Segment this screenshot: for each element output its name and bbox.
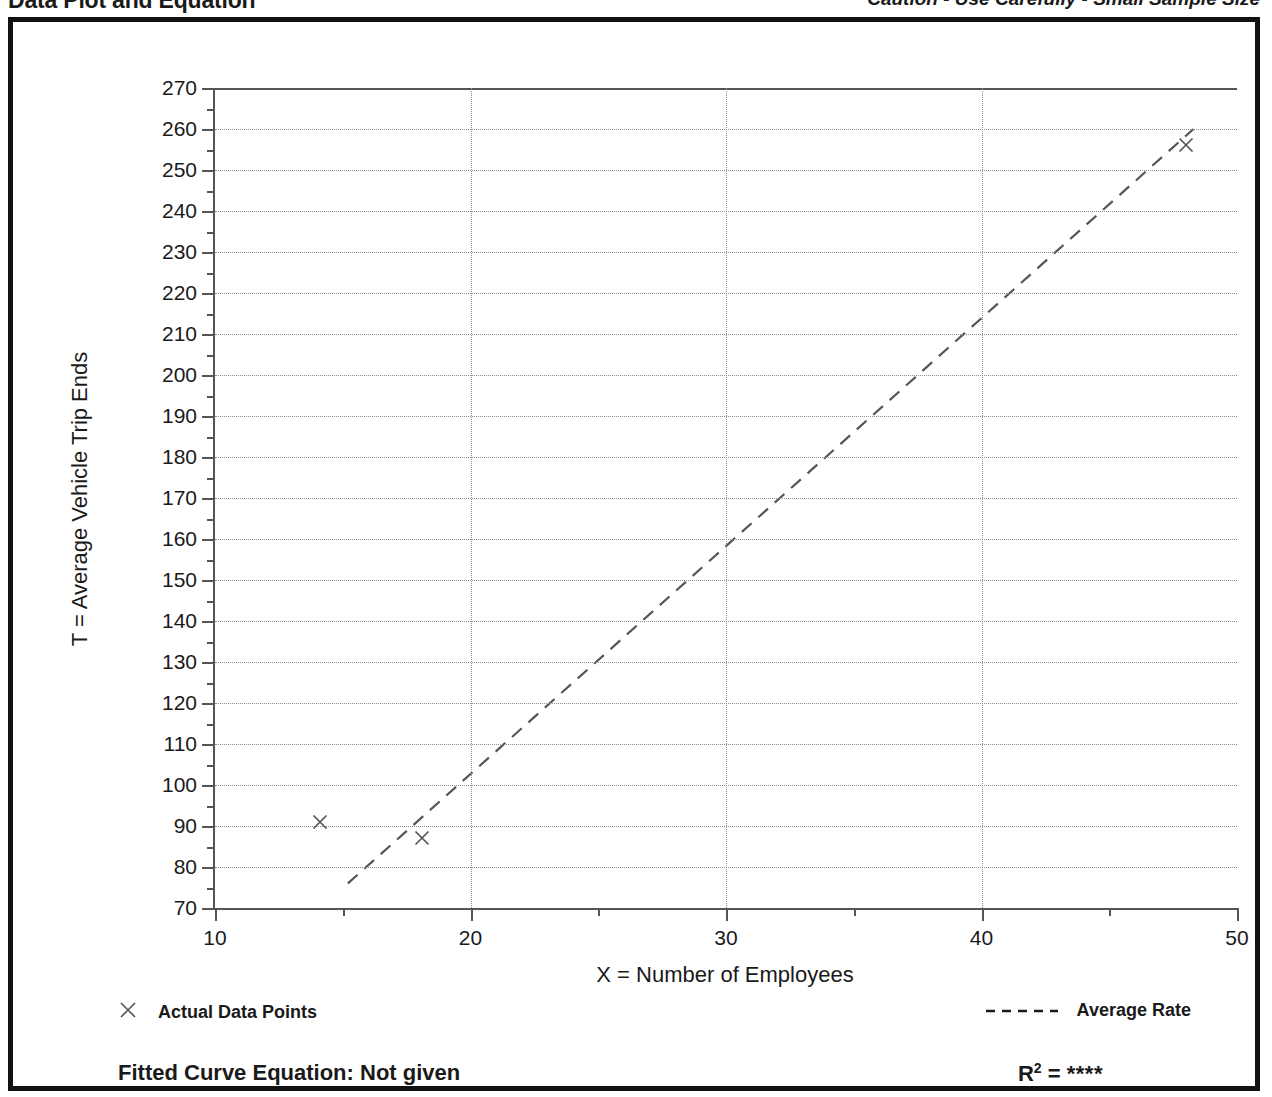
y-axis-minor-tick (207, 683, 215, 685)
y-gridline (215, 293, 1237, 294)
x-gridline (471, 88, 472, 908)
y-axis-minor-tick (207, 724, 215, 726)
x-axis-tick-label: 20 (459, 926, 482, 950)
x-axis-minor-tick (854, 908, 856, 916)
x-axis-tick-label: 50 (1225, 926, 1248, 950)
x-axis-minor-tick (598, 908, 600, 916)
y-gridline (215, 498, 1237, 499)
y-axis-tick-label: 90 (174, 814, 197, 838)
chart-legend: Actual Data Points Average Rate (21, 1000, 1265, 1040)
y-axis-tick (202, 293, 215, 295)
y-axis-tick (202, 334, 215, 336)
data-point-marker (412, 828, 432, 848)
y-axis-minor-tick (207, 560, 215, 562)
y-gridline (215, 785, 1237, 786)
y-axis-tick (202, 457, 215, 459)
y-gridline (215, 416, 1237, 417)
r2-equals: = (1042, 1061, 1067, 1086)
dashed-line-icon (985, 1002, 1059, 1020)
x-axis-title: X = Number of Employees (213, 962, 1237, 988)
y-axis-minor-tick (207, 150, 215, 152)
y-axis-minor-tick (207, 232, 215, 234)
chart-footer: Fitted Curve Equation: Not given R2 = **… (21, 1060, 1265, 1097)
y-gridline (215, 539, 1237, 540)
average-rate-trendline (215, 88, 1237, 908)
y-axis-minor-tick (207, 396, 215, 398)
y-axis-tick-label: 220 (162, 281, 197, 305)
x-axis-tick (1237, 908, 1239, 921)
y-axis-tick-label: 180 (162, 445, 197, 469)
y-axis-minor-tick (207, 642, 215, 644)
y-axis-tick (202, 539, 215, 541)
x-axis-tick (471, 908, 473, 921)
y-axis-tick (202, 621, 215, 623)
plot-inner: 7080901001101201301401501601701801902002… (215, 88, 1237, 908)
y-axis-tick (202, 88, 215, 90)
y-axis-tick-label: 240 (162, 199, 197, 223)
y-axis-tick-label: 200 (162, 363, 197, 387)
y-gridline (215, 826, 1237, 827)
r2-prefix: R (1018, 1061, 1034, 1086)
y-axis-tick-label: 270 (162, 76, 197, 100)
x-gridline (726, 88, 727, 908)
plot-area: 7080901001101201301401501601701801902002… (213, 88, 1237, 910)
y-axis-tick (202, 211, 215, 213)
y-axis-tick (202, 867, 215, 869)
y-gridline (215, 170, 1237, 171)
y-axis-minor-tick (207, 478, 215, 480)
y-axis-tick (202, 252, 215, 254)
y-axis-minor-tick (207, 314, 215, 316)
y-gridline (215, 703, 1237, 704)
y-axis-tick-label: 190 (162, 404, 197, 428)
y-axis-tick (202, 662, 215, 664)
y-axis-tick-label: 150 (162, 568, 197, 592)
y-gridline (215, 621, 1237, 622)
y-gridline (215, 88, 1237, 90)
y-gridline (215, 129, 1237, 130)
y-gridline (215, 867, 1237, 868)
y-gridline (215, 211, 1237, 212)
y-gridline (215, 457, 1237, 458)
y-axis-minor-tick (207, 765, 215, 767)
y-axis-tick-label: 140 (162, 609, 197, 633)
x-axis-minor-tick (343, 908, 345, 916)
y-axis-minor-tick (207, 888, 215, 890)
x-axis-tick (726, 908, 728, 921)
y-axis-tick-label: 130 (162, 650, 197, 674)
x-marker-icon (118, 1000, 138, 1024)
y-axis-tick (202, 375, 215, 377)
y-gridline (215, 744, 1237, 745)
r2-stars: **** (1067, 1061, 1103, 1086)
y-axis-tick-label: 120 (162, 691, 197, 715)
y-axis-tick (202, 129, 215, 131)
data-point-marker (310, 812, 330, 832)
legend-label-actual-data-points: Actual Data Points (158, 1002, 317, 1023)
data-point-marker (1176, 135, 1196, 155)
y-gridline (215, 662, 1237, 663)
y-gridline (215, 252, 1237, 253)
legend-label-average-rate: Average Rate (1077, 1000, 1191, 1021)
y-axis-tick-label: 160 (162, 527, 197, 551)
legend-item-actual-data-points: Actual Data Points (118, 1000, 317, 1024)
y-axis-minor-tick (207, 191, 215, 193)
y-axis-title: T = Average Vehicle Trip Ends (65, 88, 95, 910)
y-axis-tick (202, 580, 215, 582)
y-axis-tick (202, 703, 215, 705)
y-gridline (215, 334, 1237, 335)
y-axis-tick-label: 80 (174, 855, 197, 879)
y-axis-minor-tick (207, 847, 215, 849)
y-axis-tick (202, 498, 215, 500)
y-axis-tick (202, 416, 215, 418)
y-axis-tick-label: 100 (162, 773, 197, 797)
legend-item-average-rate: Average Rate (985, 1000, 1191, 1021)
y-axis-tick (202, 826, 215, 828)
y-axis-tick (202, 744, 215, 746)
y-axis-tick-label: 230 (162, 240, 197, 264)
y-axis-minor-tick (207, 806, 215, 808)
y-axis-tick-label: 250 (162, 158, 197, 182)
y-axis-minor-tick (207, 437, 215, 439)
y-axis-minor-tick (207, 519, 215, 521)
y-axis-tick (202, 908, 215, 910)
x-axis-tick-label: 40 (970, 926, 993, 950)
y-gridline (215, 375, 1237, 376)
